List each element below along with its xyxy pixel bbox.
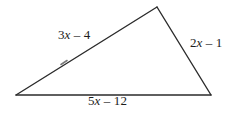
side-label-right: 2x – 1 [190,36,222,49]
side-label-left-operator: – [70,27,83,42]
side-label-right-coefficient: 2 [190,35,197,50]
side-label-left: 3x – 4 [58,28,90,41]
side-label-left-coefficient: 3 [58,27,65,42]
side-label-right-operator: – [202,35,215,50]
side-label-base-coefficient: 5 [88,93,95,108]
side-label-base-constant: 12 [114,93,127,108]
side-label-base-operator: – [100,93,113,108]
side-label-left-constant: 4 [84,27,91,42]
side-label-base: 5x – 12 [88,94,127,107]
side-label-right-constant: 1 [216,35,223,50]
